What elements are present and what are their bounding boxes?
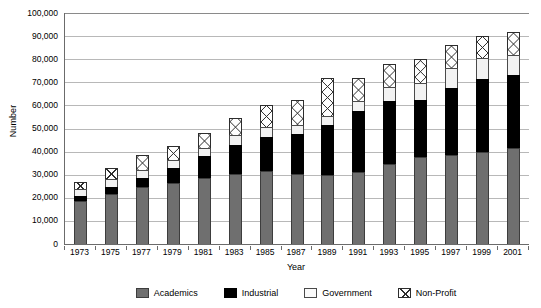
bar-segment-government — [260, 127, 273, 136]
stacked-bar[interactable] — [136, 155, 149, 244]
stacked-bar[interactable] — [321, 78, 334, 244]
x-tick-label: 1995 — [404, 246, 435, 262]
x-tick-label: 1991 — [342, 246, 373, 262]
x-tick-label: 1973 — [64, 246, 95, 262]
x-tick-label: 1993 — [373, 246, 404, 262]
bar-segment-academics — [507, 148, 520, 244]
stacked-bar[interactable] — [167, 146, 180, 244]
bar-slot — [96, 13, 127, 244]
bar-segment-nonprofit — [476, 36, 489, 58]
y-tick-label: 90,000 — [32, 32, 58, 41]
chart-legend: AcademicsIndustrialGovernmentNon-Profit — [64, 284, 528, 302]
bar-segment-industrial — [383, 101, 396, 165]
legend-item-government[interactable]: Government — [304, 288, 372, 298]
bar-segment-government — [383, 87, 396, 101]
bar-segment-academics — [105, 194, 118, 244]
bar-segment-nonprofit — [136, 155, 149, 170]
stacked-bar[interactable] — [476, 36, 489, 244]
stacked-bar[interactable] — [414, 59, 427, 244]
x-axis-tick-labels: 1973197519771979198119831985198719891991… — [64, 246, 528, 262]
x-tick-label: 1977 — [126, 246, 157, 262]
legend-swatch-government — [304, 288, 317, 298]
bar-segment-academics — [383, 164, 396, 244]
bar-slot — [220, 13, 251, 244]
bar-segment-nonprofit — [105, 168, 118, 180]
bar-segment-academics — [476, 152, 489, 244]
stacked-bar[interactable] — [507, 32, 520, 244]
stacked-bar[interactable] — [445, 45, 458, 244]
x-tick-label: 1999 — [466, 246, 497, 262]
x-tick-label: 1987 — [281, 246, 312, 262]
bar-segment-industrial — [167, 168, 180, 183]
bar-slot — [282, 13, 313, 244]
bar-segment-nonprofit — [229, 118, 242, 135]
bar-group — [65, 13, 529, 244]
x-axis-title: Year — [64, 262, 528, 272]
x-tick-mark — [188, 246, 189, 250]
stacked-bar[interactable] — [352, 78, 365, 244]
x-tick-mark — [95, 246, 96, 250]
bar-segment-government — [352, 101, 365, 111]
bar-segment-industrial — [260, 137, 273, 172]
bar-segment-academics — [260, 171, 273, 244]
x-tick-label: 1979 — [157, 246, 188, 262]
x-tick-mark — [219, 246, 220, 250]
bar-segment-industrial — [136, 178, 149, 187]
bar-slot — [467, 13, 498, 244]
bar-segment-government — [507, 55, 520, 76]
legend-item-nonprofit[interactable]: Non-Profit — [398, 288, 457, 298]
bar-segment-industrial — [352, 111, 365, 172]
bar-segment-academics — [291, 174, 304, 244]
stacked-bar[interactable] — [260, 105, 273, 244]
bar-segment-government — [476, 58, 489, 79]
bar-slot — [127, 13, 158, 244]
bar-segment-nonprofit — [414, 59, 427, 83]
bar-segment-government — [74, 189, 87, 196]
bar-segment-academics — [352, 172, 365, 244]
stacked-bar[interactable] — [291, 100, 304, 244]
bar-segment-government — [291, 125, 304, 134]
bar-segment-industrial — [476, 79, 489, 152]
legend-item-industrial[interactable]: Industrial — [224, 288, 279, 298]
bar-slot — [313, 13, 344, 244]
x-tick-mark — [497, 246, 498, 250]
legend-label: Academics — [154, 288, 198, 298]
x-tick-mark — [466, 246, 467, 250]
x-tick-label: 1983 — [219, 246, 250, 262]
stacked-bar[interactable] — [105, 168, 118, 244]
x-tick-label: 1975 — [95, 246, 126, 262]
bar-segment-nonprofit — [198, 133, 211, 148]
x-tick-mark — [281, 246, 282, 250]
x-tick-mark — [64, 246, 65, 250]
bar-segment-nonprofit — [260, 105, 273, 127]
x-tick-mark — [126, 246, 127, 250]
bar-segment-industrial — [414, 100, 427, 158]
bar-slot — [251, 13, 282, 244]
stacked-bar[interactable] — [383, 64, 396, 244]
bar-segment-government — [167, 160, 180, 168]
bar-segment-academics — [167, 183, 180, 244]
legend-item-academics[interactable]: Academics — [136, 288, 198, 298]
x-tick-label: 2001 — [497, 246, 528, 262]
legend-swatch-nonprofit — [398, 288, 411, 298]
y-tick-label: 30,000 — [32, 170, 58, 179]
bar-slot — [189, 13, 220, 244]
stacked-bar[interactable] — [198, 133, 211, 244]
bar-segment-nonprofit — [321, 78, 334, 116]
legend-label: Government — [322, 288, 372, 298]
stacked-bar[interactable] — [74, 182, 87, 244]
bar-segment-nonprofit — [167, 146, 180, 160]
bar-slot — [436, 13, 467, 244]
x-tick-mark — [250, 246, 251, 250]
y-tick-label: 20,000 — [32, 193, 58, 202]
y-tick-label: 70,000 — [32, 78, 58, 87]
x-tick-label: 1997 — [435, 246, 466, 262]
y-tick-label: 10,000 — [32, 216, 58, 225]
x-tick-mark — [528, 246, 529, 250]
bar-segment-nonprofit — [445, 45, 458, 68]
stacked-bar[interactable] — [229, 118, 242, 244]
bar-segment-government — [198, 148, 211, 156]
bar-segment-industrial — [105, 187, 118, 194]
y-tick-label: 100,000 — [27, 9, 58, 18]
bar-segment-industrial — [198, 156, 211, 178]
